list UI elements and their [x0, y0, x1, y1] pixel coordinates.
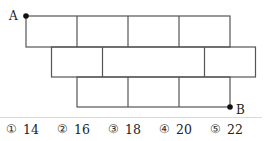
- choice-marker: ②: [57, 122, 68, 136]
- choice-2[interactable]: ② 16: [57, 120, 108, 138]
- divider: [0, 117, 262, 118]
- choice-3[interactable]: ③ 18: [108, 120, 159, 138]
- choice-marker: ④: [159, 122, 170, 136]
- point-b-dot: [227, 104, 233, 110]
- choice-marker: ⑤: [210, 122, 221, 136]
- choice-value: 18: [125, 122, 141, 137]
- choice-value: 22: [227, 122, 243, 137]
- point-a-dot: [23, 13, 29, 19]
- choice-value: 14: [23, 122, 39, 137]
- point-a-label: A: [8, 9, 18, 23]
- choice-1[interactable]: ① 14: [6, 120, 57, 138]
- choice-value: 16: [74, 122, 90, 137]
- choice-marker: ①: [6, 122, 17, 136]
- row-3-outline: [77, 77, 230, 107]
- choice-value: 20: [176, 122, 192, 137]
- choice-marker: ③: [108, 122, 119, 136]
- choice-4[interactable]: ④ 20: [159, 120, 210, 138]
- answer-choices: ① 14 ② 16 ③ 18 ④ 20 ⑤ 22: [6, 120, 268, 138]
- row-2-outline: [52, 47, 256, 77]
- grid-lines: [26, 16, 256, 107]
- brick-grid-diagram: A B: [0, 0, 269, 118]
- choice-5[interactable]: ⑤ 22: [210, 120, 261, 138]
- point-b-label: B: [236, 103, 245, 117]
